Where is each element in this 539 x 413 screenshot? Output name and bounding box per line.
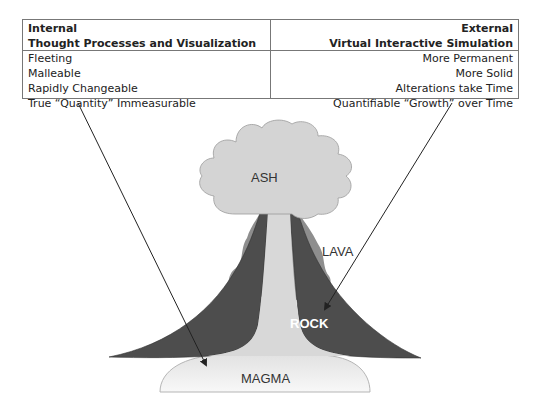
volcano-diagram: [0, 0, 539, 413]
arrow-external-to-rock: [325, 103, 452, 309]
lava-label: LAVA: [322, 244, 353, 259]
ash-label: ASH: [251, 170, 278, 185]
rock-label: ROCK: [290, 316, 328, 331]
magma-label: MAGMA: [241, 371, 290, 386]
arrow-internal-to-magma: [78, 103, 206, 365]
